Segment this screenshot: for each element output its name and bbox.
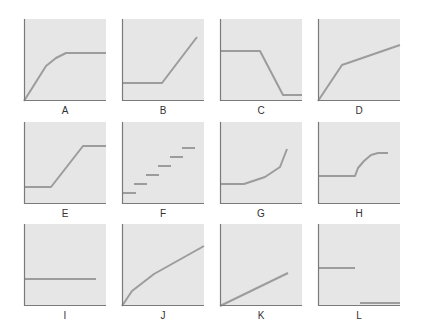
graph-plot [318,19,400,101]
graph-plot [220,224,302,306]
graph-panel-b [122,19,204,101]
graph-panel-f [122,122,204,204]
graph-panel-g [220,122,302,204]
panel-label: L [318,310,400,321]
panel-label: D [318,105,400,116]
graph-panel-c [220,19,302,101]
plot-background [24,224,106,306]
graph-plot [318,122,400,204]
graph-panel-j [122,224,204,306]
plot-background [24,19,106,101]
panel-label: G [220,208,302,219]
graph-panel-l [318,224,400,306]
plot-background [318,224,400,306]
panel-label: C [220,105,302,116]
graph-panel-h [318,122,400,204]
panel-label: B [122,105,204,116]
graph-plot [122,19,204,101]
graph-plot [24,19,106,101]
plot-background [220,224,302,306]
panel-label: H [318,208,400,219]
panel-label: E [24,208,106,219]
graph-plot [220,19,302,101]
graph-panel-a [24,19,106,101]
panel-label: A [24,105,106,116]
plot-background [122,19,204,101]
panel-label: I [24,310,106,321]
graph-plot [24,224,106,306]
plot-background [318,122,400,204]
graph-plot [24,122,106,204]
plot-background [220,19,302,101]
panel-label: F [122,208,204,219]
graph-panel-e [24,122,106,204]
panel-label: K [220,310,302,321]
plot-background [122,224,204,306]
graph-plot [122,224,204,306]
graph-panel-i [24,224,106,306]
graph-panel-d [318,19,400,101]
plot-background [122,122,204,204]
graph-plot [318,224,400,306]
plot-background [220,122,302,204]
graph-plot [122,122,204,204]
graph-panel-k [220,224,302,306]
graph-plot [220,122,302,204]
panel-label: J [122,310,204,321]
plot-background [24,122,106,204]
